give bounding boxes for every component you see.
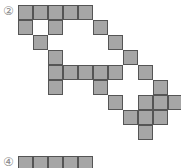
grid-cell xyxy=(63,156,78,168)
figure-4-label: ④ xyxy=(3,156,14,168)
grid-cell xyxy=(108,35,123,50)
grid-cell xyxy=(48,156,63,168)
grid-cell xyxy=(138,110,153,125)
grid-cell xyxy=(48,80,63,95)
grid-cell xyxy=(168,95,181,110)
grid-cell xyxy=(18,5,33,20)
grid-cell xyxy=(33,35,48,50)
grid-cell xyxy=(78,5,93,20)
grid-cell xyxy=(138,125,153,140)
grid-cell xyxy=(153,80,168,95)
grid-cell xyxy=(108,65,123,80)
grid-cell xyxy=(78,65,93,80)
grid-cell xyxy=(123,50,138,65)
grid-cell xyxy=(108,95,123,110)
grid-cell xyxy=(93,65,108,80)
grid-cell xyxy=(93,80,108,95)
grid-cell xyxy=(138,95,153,110)
grid-cell xyxy=(123,110,138,125)
grid-cell xyxy=(18,156,33,168)
grid-cell xyxy=(48,65,63,80)
grid-cell xyxy=(48,50,63,65)
grid-cell xyxy=(153,95,168,110)
grid-cell xyxy=(63,65,78,80)
grid-cell xyxy=(18,20,33,35)
grid-cell xyxy=(48,20,63,35)
grid-cell xyxy=(78,156,93,168)
grid-cell xyxy=(48,5,63,20)
grid-cell xyxy=(63,5,78,20)
grid-cell xyxy=(153,110,168,125)
grid-cell xyxy=(93,20,108,35)
grid-cell xyxy=(33,156,48,168)
figure-2-label: ② xyxy=(3,5,14,17)
grid-cell xyxy=(138,65,153,80)
grid-cell xyxy=(33,5,48,20)
